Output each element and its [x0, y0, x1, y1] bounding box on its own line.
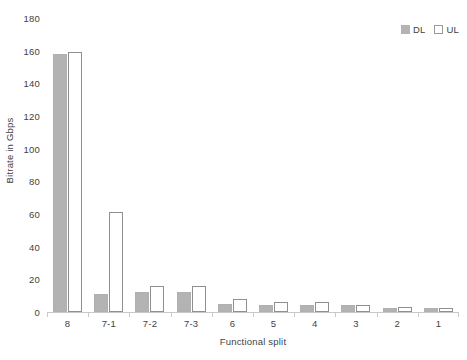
y-axis-ticks: 020406080100120140160180: [0, 18, 47, 312]
x-tick-label: 7-2: [143, 318, 157, 329]
bar-ul-4: [315, 302, 329, 312]
x-tick-mark: [171, 312, 172, 317]
bar-group: [418, 18, 459, 312]
x-tick-mark: [294, 312, 295, 317]
x-tick-label: 4: [312, 318, 317, 329]
bar-dl-7-1: [94, 294, 108, 312]
bar-dl-7-3: [177, 292, 191, 312]
x-tick-label: 7-3: [184, 318, 198, 329]
y-tick-label: 120: [24, 111, 40, 122]
x-axis-tick-labels: 87-17-27-3654321: [47, 318, 459, 332]
x-tick-mark: [212, 312, 213, 317]
x-tick-label: 2: [394, 318, 399, 329]
x-tick-label: 1: [436, 318, 441, 329]
x-tick-label: 5: [271, 318, 276, 329]
y-tick-label: 100: [24, 143, 40, 154]
bar-group: [129, 18, 170, 312]
y-tick-label: 60: [29, 209, 40, 220]
y-tick-label: 80: [29, 176, 40, 187]
bar-group: [253, 18, 294, 312]
y-tick-label: 160: [24, 45, 40, 56]
x-tick-label: 3: [353, 318, 358, 329]
bar-group: [88, 18, 129, 312]
y-tick-label: 140: [24, 78, 40, 89]
bar-dl-7-2: [135, 292, 149, 312]
x-tick-mark: [47, 312, 48, 317]
x-tick-mark: [458, 312, 459, 317]
bar-group: [47, 18, 88, 312]
x-tick-label: 8: [65, 318, 70, 329]
x-tick-mark: [418, 312, 419, 317]
bar-group: [294, 18, 335, 312]
bar-dl-8: [53, 54, 67, 312]
y-tick-label: 0: [35, 307, 40, 318]
bar-ul-6: [233, 299, 247, 312]
x-tick-mark: [335, 312, 336, 317]
bar-group: [377, 18, 418, 312]
bar-dl-6: [218, 304, 232, 312]
x-tick-mark: [377, 312, 378, 317]
x-tick-mark: [88, 312, 89, 317]
x-tick-mark: [129, 312, 130, 317]
x-tick-mark: [253, 312, 254, 317]
x-axis-title: Functional split: [47, 336, 459, 347]
y-tick-label: 40: [29, 241, 40, 252]
bar-ul-8: [68, 52, 82, 312]
x-tick-label: 7-1: [102, 318, 116, 329]
plot-area: [47, 18, 459, 312]
bar-chart-figure: DL UL Bitrate in Gbps 020406080100120140…: [0, 0, 467, 360]
bar-group: [212, 18, 253, 312]
bar-group: [335, 18, 376, 312]
bar-ul-7-2: [150, 286, 164, 312]
bar-ul-5: [274, 302, 288, 312]
x-tick-label: 6: [230, 318, 235, 329]
y-tick-label: 180: [24, 13, 40, 24]
bar-ul-7-3: [192, 286, 206, 312]
bar-ul-7-1: [109, 212, 123, 312]
y-tick-label: 20: [29, 274, 40, 285]
bar-group: [171, 18, 212, 312]
